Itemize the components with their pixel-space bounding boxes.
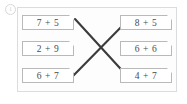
expression-box-right-1[interactable]: 8 + 5: [120, 15, 172, 30]
exercise-card: 7 + 5 2 + 9 6 + 7 8 + 5 6 + 6 4 + 7: [17, 7, 177, 92]
question-number-marker: 1: [5, 4, 16, 15]
expression-box-left-2[interactable]: 2 + 9: [22, 41, 74, 56]
expression-box-left-1[interactable]: 7 + 5: [22, 15, 74, 30]
connector-line-up-right[interactable]: [72, 20, 128, 77]
expression-box-left-3[interactable]: 6 + 7: [22, 68, 74, 83]
screenshot-root: 1 7 + 5 2 + 9 6 + 7 8 + 5 6 + 6 4 + 7: [0, 0, 187, 104]
expression-box-right-3[interactable]: 4 + 7: [120, 68, 172, 83]
expression-box-right-2[interactable]: 6 + 6: [120, 41, 172, 56]
